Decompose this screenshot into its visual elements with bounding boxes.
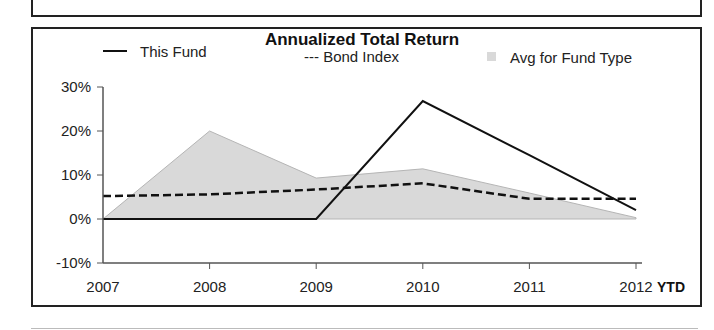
legend-this-fund: This Fund <box>140 43 207 60</box>
x-tick-label: 2011 <box>513 278 545 295</box>
x-tick-label: 2012 <box>619 278 652 295</box>
y-tick-label: 20% <box>61 122 91 139</box>
x-tick-label: 2009 <box>300 278 333 295</box>
x-tick-label: 2008 <box>193 278 226 295</box>
legend-area-swatch-icon <box>487 52 496 61</box>
series-avg-fund-type-area <box>103 131 636 219</box>
legend-bond-index: --- Bond Index <box>304 48 400 65</box>
x-axis-ytd-label: YTD <box>657 279 685 295</box>
y-tick-label: 10% <box>61 166 91 183</box>
y-tick-label: 30% <box>61 78 91 95</box>
annualized-return-chart: Annualized Total Return This Fund --- Bo… <box>0 0 714 330</box>
y-tick-label: 0% <box>69 210 91 227</box>
y-tick-label: -10% <box>56 254 91 271</box>
legend-avg-fund-type: Avg for Fund Type <box>510 49 632 66</box>
chart-title: Annualized Total Return <box>265 30 459 49</box>
x-tick-label: 2007 <box>86 278 119 295</box>
x-tick-label: 2010 <box>406 278 439 295</box>
plot-area <box>103 101 636 219</box>
